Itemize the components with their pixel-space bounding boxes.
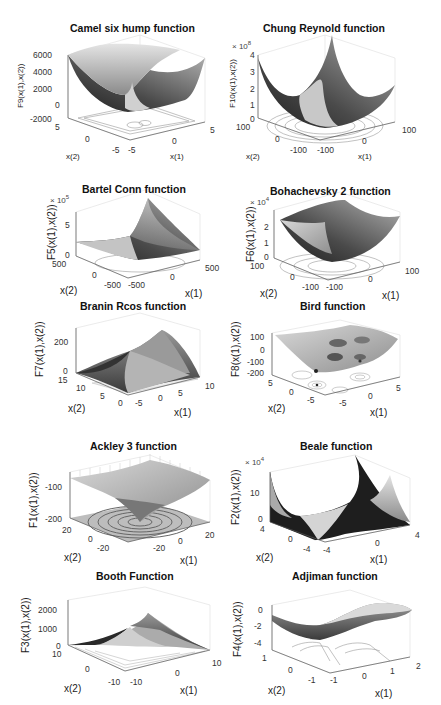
- subplot-chung-reynold: × 108 Chung Reynold function F10(x(1),x(…: [220, 0, 440, 150]
- z-axis-label: F8(x(1),x(2)): [230, 321, 241, 377]
- y-tick: 5: [268, 378, 273, 388]
- z-axis-label: F2(x(1),x(2)): [230, 469, 241, 525]
- y-tick: 0: [289, 387, 294, 397]
- z-tick: -100: [247, 357, 264, 367]
- y-tick: -10: [108, 677, 120, 687]
- x-tick: -20: [153, 543, 165, 553]
- x-tick: 0: [368, 391, 373, 401]
- subplot-bird: Bird function F8(x(1),x(2)) 100 0 -100 -…: [220, 295, 440, 430]
- z-axis-label: F3(x(1),x(2)): [20, 597, 31, 653]
- x-tick: 5: [178, 388, 183, 398]
- y-tick: 0: [290, 272, 295, 282]
- x-tick: -100: [326, 282, 343, 292]
- y-tick: -100: [302, 282, 319, 292]
- z-tick: 1000: [38, 624, 57, 634]
- x-tick: 1: [390, 666, 395, 676]
- x-axis-label: x(1): [180, 685, 197, 696]
- x-tick: 0: [178, 536, 183, 546]
- subplot-adjiman: Adjiman function F4(x(1),x(2)) 0 -2 -4 1…: [220, 565, 440, 705]
- z-axis-label: F4(x(1),x(2)): [232, 601, 243, 657]
- x-tick: 0: [375, 538, 380, 548]
- subplot-booth: Booth Function F3(x(1),x(2)) 2000 1000 0…: [0, 565, 220, 705]
- y-axis-label: x(2): [68, 403, 85, 414]
- z-exponent: × 104: [245, 456, 264, 467]
- y-tick: 10: [76, 383, 85, 393]
- y-axis-label: x(2): [268, 403, 285, 414]
- plot-title: Booth Function: [96, 570, 174, 582]
- x-tick: -5: [135, 398, 143, 408]
- z-tick: 0: [260, 345, 265, 355]
- y-tick: 0: [118, 398, 123, 408]
- z-tick: 6000: [33, 50, 52, 60]
- z-exponent: × 105: [50, 194, 69, 205]
- y-tick: 5: [55, 122, 60, 132]
- y-tick: 500: [52, 259, 66, 269]
- x-tick: 100: [405, 266, 419, 276]
- x-axis-label: x(1): [370, 554, 387, 565]
- plot-title: Bartel Conn function: [82, 183, 186, 195]
- x-tick: 20: [205, 530, 214, 540]
- x-tick: 0: [362, 136, 367, 146]
- y-axis-label: x(2): [268, 685, 285, 696]
- subplot-beale: × 104 Beale function F2(x(1),x(2)) 10 0 …: [220, 430, 440, 565]
- z-tick: 4: [250, 50, 255, 60]
- x-tick: 0: [172, 136, 177, 146]
- z-tick: 0: [258, 605, 263, 615]
- y-tick: 20: [62, 525, 71, 535]
- y-tick: 0: [288, 534, 293, 544]
- y-tick: -5: [307, 395, 315, 405]
- plot-title: Ackley 3 function: [90, 440, 177, 452]
- z-tick: -200: [45, 514, 62, 524]
- x-axis-label: x(1): [174, 407, 191, 418]
- subplot-bohachevsky-2: × 104 Bohachevsky 2 function F6(x(1),x(2…: [220, 150, 440, 290]
- x-tick: 5: [210, 125, 215, 135]
- z-tick: 200: [54, 337, 68, 347]
- plot-title: Chung Reynold function: [263, 22, 385, 34]
- x-tick: -1: [330, 675, 338, 685]
- z-tick: 2000: [38, 605, 57, 615]
- y-tick: 100: [236, 122, 250, 132]
- x-tick: -4: [323, 545, 331, 555]
- z-axis-label: F9(x(1),x(2)): [16, 64, 25, 108]
- y-tick: 10: [52, 649, 61, 659]
- y-tick: -4: [303, 544, 311, 554]
- z-tick: 2000: [33, 84, 52, 94]
- z-tick: 5: [65, 220, 70, 230]
- x-tick: 0: [175, 668, 180, 678]
- y-tick: -1: [308, 675, 316, 685]
- z-tick: 0: [264, 252, 269, 262]
- plot-title: Bohachevsky 2 function: [270, 185, 391, 197]
- z-axis-label: F10(x(1),x(2)): [228, 59, 237, 108]
- plot-title: Beale function: [300, 440, 372, 452]
- y-tick: 0: [288, 665, 293, 675]
- x-axis-label: x(1): [370, 407, 387, 418]
- z-tick: 2: [250, 84, 255, 94]
- x-tick: 500: [205, 263, 219, 273]
- x-tick: -500: [128, 280, 145, 290]
- z-tick: 0: [55, 100, 60, 110]
- z-exponent: × 104: [250, 196, 269, 207]
- y-tick: 1: [262, 653, 267, 663]
- z-tick: -200: [247, 368, 264, 378]
- y-tick: 5: [100, 391, 105, 401]
- z-axis-label: F6(x(1),x(2)): [245, 206, 256, 262]
- x-tick: -5: [339, 398, 347, 408]
- x-axis-label: x(1): [375, 688, 392, 699]
- subplot-camel-six-hump: Camel six hump function F9(x(1),x(2)) 60…: [0, 0, 220, 150]
- x-tick: 4: [415, 530, 420, 540]
- z-tick: -4: [254, 638, 262, 648]
- y-tick: 0: [85, 134, 90, 144]
- x-tick: 0: [170, 272, 175, 282]
- plot-title: Adjiman function: [292, 570, 378, 582]
- z-tick: 2: [264, 222, 269, 232]
- subplot-bartel-conn: × 105 Bartel Conn function F5(x(1),x(2))…: [0, 150, 220, 290]
- x-tick: 100: [402, 125, 416, 135]
- z-tick: 100: [250, 332, 264, 342]
- surface-plot: [0, 150, 220, 290]
- y-tick: 0: [88, 534, 93, 544]
- z-tick: 3: [250, 67, 255, 77]
- z-tick: 10: [250, 488, 259, 498]
- x-tick: 0: [362, 671, 367, 681]
- subplot-branin-rcos: Branin Rcos function F7(x(1),x(2)) 200 0…: [0, 295, 220, 430]
- z-tick: 4000: [33, 67, 52, 77]
